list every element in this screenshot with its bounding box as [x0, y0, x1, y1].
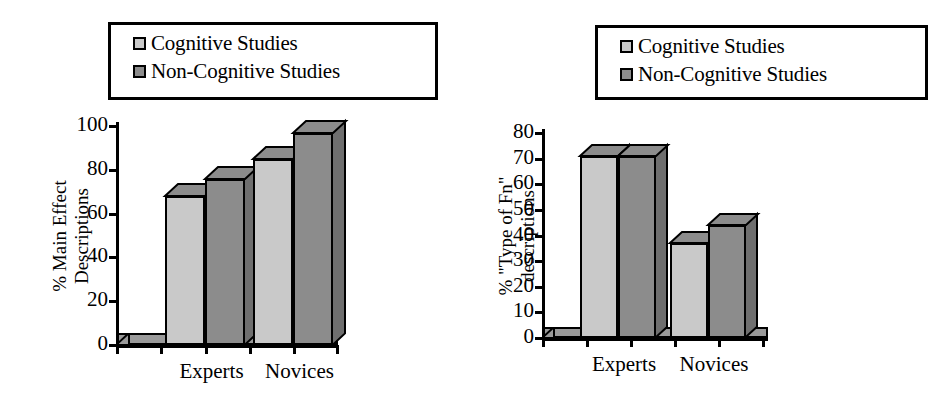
y-tick	[109, 300, 117, 303]
bar-type-of-fn-descriptions-experts-non-cognitive	[618, 145, 668, 338]
x-tick	[116, 345, 119, 354]
bar-main-effect-descriptions-experts-non-cognitive	[205, 167, 258, 345]
y-axis-title: % "Type of Fn"descriptions	[494, 113, 544, 358]
y-axis-line	[116, 122, 119, 348]
x-tick	[336, 345, 339, 354]
plot-area-type-of-fn: 01020304050607080ExpertsNovices% "Type o…	[470, 0, 940, 406]
bar-side-face	[655, 145, 670, 340]
x-tick	[630, 338, 633, 347]
bar-front-face	[580, 156, 618, 338]
bar-type-of-fn-descriptions-novices-non-cognitive	[708, 214, 758, 338]
x-tick	[586, 338, 589, 347]
bar-front-face	[165, 196, 205, 345]
bar-front-face	[253, 159, 293, 345]
y-tick	[109, 213, 117, 216]
bar-front-face	[670, 243, 708, 338]
x-tick	[249, 345, 252, 354]
y-tick	[109, 125, 117, 128]
bar-side-face	[745, 214, 760, 340]
chart-panel-main-effect: Cognitive Studies Non-Cognitive Studies …	[0, 0, 470, 406]
bar-front-face	[205, 179, 245, 345]
chart-panel-type-of-fn: Cognitive Studies Non-Cognitive Studies …	[470, 0, 940, 406]
x-tick	[293, 345, 296, 354]
bar-front-face	[708, 225, 746, 338]
bar-side-face	[332, 121, 348, 347]
y-tick	[109, 169, 117, 172]
x-tick	[762, 338, 765, 347]
x-axis-label-novices: Novices	[654, 354, 774, 375]
figure-two-bar-charts: Cognitive Studies Non-Cognitive Studies …	[0, 0, 940, 406]
x-axis-label-novices: Novices	[240, 361, 360, 382]
x-tick	[205, 345, 208, 354]
x-axis-line	[116, 345, 338, 348]
x-tick	[674, 338, 677, 347]
y-tick	[109, 256, 117, 259]
y-axis-title: % Main EffectDescriptions	[48, 106, 98, 365]
bar-main-effect-descriptions-novices-non-cognitive	[293, 121, 346, 345]
x-tick	[160, 345, 163, 354]
x-tick	[718, 338, 721, 347]
bar-front-face	[293, 133, 333, 345]
bar-front-face	[618, 156, 656, 338]
plot-area-main-effect: 020406080100ExpertsNovices% Main EffectD…	[0, 0, 470, 406]
x-axis-line	[542, 338, 768, 341]
